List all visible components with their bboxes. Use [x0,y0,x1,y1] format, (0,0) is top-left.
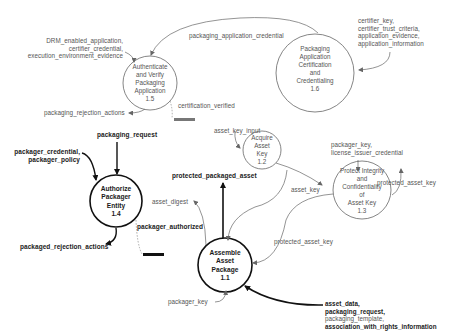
label-packager-key: packager_key [168,298,208,306]
label-packaging-request: packaging_request [97,131,157,139]
flow-asset-inputs-arrow [245,286,323,305]
flow-asset-key-1-2-to-1-1-arrow [228,170,287,240]
flow-drm-inputs-arrow [125,52,134,62]
label-asset-key: asset_key [291,186,320,194]
process-1-1[interactable]: Assemble Asset Package 1.1 [195,249,255,282]
flow-asset-key-1-2-to-1-3-arrow [276,163,322,185]
flow-certifier-inputs-arrow [359,52,390,70]
label-packaging-rejection-actions: packaging_rejection_actions [44,109,125,117]
process-1-4[interactable]: Authorize Packager Entity 1.4 [86,185,146,218]
label-packaging-application-credential: packaging_application_credential [189,32,284,40]
certification-store [174,118,195,121]
flow-packager-inputs-arrow [82,153,96,180]
label-protected-asset-key-out: protected_asset_key [377,179,436,187]
label-packager-authorized: packager_authorized [137,223,203,231]
label-certification-verified: certification_verified [178,102,235,110]
label-protected-asset-key-in: protected_asset_key [274,238,333,246]
authorization-store [143,253,164,256]
label-certifier-inputs: certifier_key, certifier_trust_criteria,… [358,17,424,48]
label-packaged-rejection-actions: packaged_rejection_actions [20,243,108,251]
flow-packaging-rejection-arrow [129,109,145,113]
flow-certification-verified-dashed [170,101,172,118]
flow-protected-asset-key-in-arrow [253,194,333,263]
process-1-5[interactable]: Authenticate and Verify Packaging Applic… [115,63,185,103]
flow-packaged-rejection-arrow [106,228,116,244]
process-1-2[interactable]: Acquire Asset Key 1.2 [237,134,287,166]
label-packager-key-license: packager_key, license_issuer_credential [331,141,403,156]
process-1-3[interactable]: Protect Integrity and Confidentiality of… [322,167,402,215]
label-protected-packaged-asset: protected_packaged_asset [172,172,257,180]
label-drm-inputs: DRM_enabled_application, certifier_crede… [18,37,123,60]
label-asset-digest: asset_digest [152,198,188,206]
label-packager-inputs: packager_credential, packager_policy [10,148,80,163]
label-asset-key-input: asset_key_input [214,127,260,135]
process-1-6[interactable]: Packaging Application Certification and … [275,45,355,93]
label-asset-inputs: asset_data, packaging_request, packaging… [325,300,437,331]
